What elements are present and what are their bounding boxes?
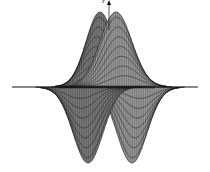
z-axis-arrow-icon: [107, 0, 111, 5]
z-axis-label: z: [102, 0, 105, 4]
surface-plot: z: [0, 0, 210, 172]
surface-plot-canvas: [0, 0, 210, 172]
